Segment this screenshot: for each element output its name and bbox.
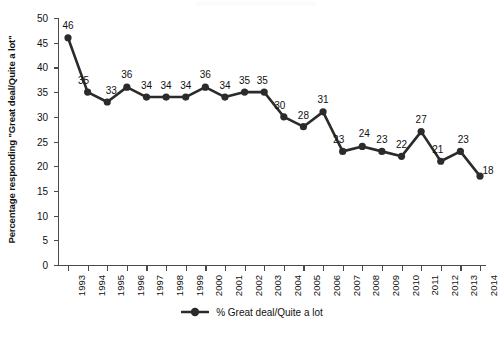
data-point-label: 36 (200, 69, 211, 80)
y-axis-tick-label: 45 (37, 37, 48, 48)
data-point-label: 35 (239, 75, 250, 86)
x-axis-tick (68, 266, 69, 271)
x-axis-tick-label: 2001 (233, 275, 244, 296)
scan-artifact (196, 1, 316, 6)
chart-legend: % Great deal/Quite a lot (0, 306, 504, 318)
x-axis-tick (480, 266, 481, 271)
y-axis-title: Percentage responding "Great deal/Quite … (0, 0, 22, 278)
data-point (123, 84, 130, 91)
x-axis-tick (460, 266, 461, 271)
data-point-label: 23 (458, 134, 469, 145)
data-point-label: 24 (359, 128, 370, 139)
x-axis-tick (205, 266, 206, 271)
x-axis-tick (382, 266, 383, 271)
x-axis-tick-label: 2014 (488, 275, 499, 296)
x-axis-tick (186, 266, 187, 271)
data-point-label: 46 (62, 20, 73, 31)
x-axis-tick-label: 2009 (390, 275, 401, 296)
data-point (359, 143, 366, 150)
x-axis-tick-label: 2004 (292, 275, 303, 296)
x-axis-tick (284, 266, 285, 271)
x-axis-tick-label: 2007 (351, 275, 362, 296)
data-point (339, 148, 346, 155)
x-axis-tick (245, 266, 246, 271)
y-axis-tick-label: 50 (37, 13, 48, 24)
data-point (143, 93, 150, 100)
x-axis-tick-label: 2002 (253, 275, 264, 296)
data-point-label: 28 (298, 110, 309, 121)
x-axis-tick (146, 266, 147, 271)
x-axis-tick-label: 1999 (194, 275, 205, 296)
data-point-label: 33 (106, 85, 117, 96)
x-axis-tick (107, 266, 108, 271)
x-axis-tick (264, 266, 265, 271)
plot-area: 50454035302520151050 1993199419951996199… (58, 18, 494, 266)
data-point (300, 123, 307, 130)
data-point-label: 21 (432, 144, 443, 155)
x-axis-tick (127, 266, 128, 271)
data-point-label: 36 (121, 69, 132, 80)
data-point (378, 148, 385, 155)
x-axis-tick (343, 266, 344, 271)
data-point-label: 34 (161, 80, 172, 91)
x-axis-tick-label: 1996 (135, 275, 146, 296)
x-axis-tick (88, 266, 89, 271)
x-axis-tick-label: 1994 (96, 275, 107, 296)
data-point (418, 128, 425, 135)
data-point-label: 35 (257, 75, 268, 86)
legend-marker-icon (181, 306, 209, 318)
data-point (202, 84, 209, 91)
y-axis-tick-label: 30 (37, 111, 48, 122)
data-point-label: 30 (274, 100, 285, 111)
data-point (437, 158, 444, 165)
y-axis-tick-label: 10 (37, 210, 48, 221)
y-axis-tick-label: 35 (37, 87, 48, 98)
data-point (241, 89, 248, 96)
x-axis-tick-label: 2011 (429, 275, 440, 295)
x-axis-tick-label: 2003 (272, 275, 283, 296)
data-point-label: 18 (482, 165, 493, 176)
x-axis-tick (166, 266, 167, 271)
data-point (280, 113, 287, 120)
x-axis-tick-label: 2000 (213, 275, 224, 296)
data-point-label: 35 (78, 75, 89, 86)
data-point-label: 34 (219, 80, 230, 91)
x-axis-tick-label: 1995 (115, 275, 126, 296)
data-point (261, 89, 268, 96)
y-axis-tick-label: 5 (42, 235, 48, 246)
x-axis-tick (421, 266, 422, 271)
x-axis-tick-label: 1993 (76, 275, 87, 296)
x-axis-tick-label: 1997 (154, 275, 165, 296)
x-axis-tick (303, 266, 304, 271)
data-point-label: 23 (376, 134, 387, 145)
x-axis-tick-label: 2013 (468, 275, 479, 296)
x-axis-tick (402, 266, 403, 271)
y-axis-title-label: Percentage responding "Great deal/Quite … (6, 35, 17, 243)
x-axis-tick-label: 2006 (331, 275, 342, 296)
data-point-label: 34 (180, 80, 191, 91)
x-axis-tick-label: 2010 (410, 275, 421, 296)
x-axis-tick (362, 266, 363, 271)
x-axis-tick-label: 1998 (174, 275, 185, 296)
x-axis-tick (323, 266, 324, 271)
data-point-label: 27 (416, 114, 427, 125)
y-axis-tick-label: 25 (37, 136, 48, 147)
y-axis-tick-label: 20 (37, 161, 48, 172)
data-point-label: 22 (396, 139, 407, 150)
data-point-label: 34 (141, 80, 152, 91)
y-axis-tick-label: 40 (37, 62, 48, 73)
data-point-label: 31 (317, 94, 328, 105)
data-point (319, 108, 326, 115)
x-axis-tick (225, 266, 226, 271)
data-point-label: 23 (333, 134, 344, 145)
x-axis-tick (441, 266, 442, 271)
data-point (163, 93, 170, 100)
x-axis-tick-label: 2008 (370, 275, 381, 296)
y-axis-tick-label: 15 (37, 185, 48, 196)
data-point (221, 93, 228, 100)
data-point (457, 148, 464, 155)
line-chart-figure: Percentage responding "Great deal/Quite … (0, 0, 504, 338)
y-axis-tick-label: 0 (42, 260, 48, 271)
data-point (182, 93, 189, 100)
x-axis-tick-label: 2005 (311, 275, 322, 296)
